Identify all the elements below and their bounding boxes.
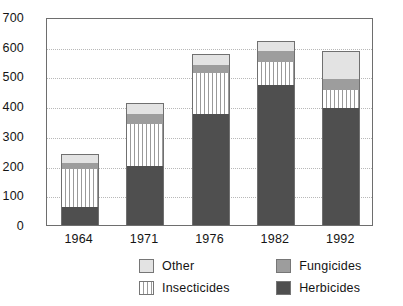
bar-segment-insecticides-1982 <box>257 62 295 86</box>
bar-1964 <box>61 154 99 225</box>
y-tick-label: 400 <box>0 100 24 114</box>
legend-label: Other <box>162 259 194 273</box>
legend-item-other: Other <box>139 259 252 273</box>
bar-segment-insecticides-1992 <box>322 90 360 108</box>
bar-segment-other-1971 <box>126 103 164 113</box>
bar-1992 <box>322 51 360 225</box>
chart-legend: OtherFungicidesInsecticidesHerbicides <box>139 259 384 295</box>
bar-1976 <box>192 54 230 225</box>
bar-segment-fungicides-1992 <box>322 79 360 89</box>
light-gray-swatch <box>139 259 154 273</box>
bar-segment-other-1976 <box>192 54 230 64</box>
bar-segment-herbicides-1992 <box>322 108 360 225</box>
legend-label: Fungicides <box>299 259 361 273</box>
y-tick-label: 100 <box>0 189 24 203</box>
bar-segment-herbicides-1971 <box>126 166 164 225</box>
bar-1982 <box>257 41 295 225</box>
bar-segment-other-1982 <box>257 41 295 51</box>
y-tick-label: 200 <box>0 160 24 174</box>
legend-label: Herbicides <box>299 281 360 295</box>
y-tick-label: 500 <box>0 70 24 84</box>
bar-1971 <box>126 103 164 225</box>
legend-item-insecticides: Insecticides <box>139 281 252 295</box>
x-tick-label-1976: 1976 <box>175 232 245 246</box>
legend-label: Insecticides <box>162 281 230 295</box>
bar-segment-insecticides-1971 <box>126 124 164 166</box>
bar-segment-herbicides-1982 <box>257 85 295 225</box>
bar-segment-fungicides-1982 <box>257 51 295 61</box>
dark-gray-swatch <box>276 281 291 295</box>
y-tick-label: 300 <box>0 130 24 144</box>
bar-segment-other-1964 <box>61 154 99 163</box>
gridline-600 <box>47 49 372 50</box>
striped-swatch <box>139 281 154 295</box>
x-tick-label-1982: 1982 <box>240 232 310 246</box>
stacked-bar-chart: OtherFungicidesInsecticidesHerbicides 01… <box>0 0 403 306</box>
x-tick-label-1971: 1971 <box>109 232 179 246</box>
bar-segment-insecticides-1964 <box>61 169 99 208</box>
y-tick-label: 0 <box>0 219 24 233</box>
medium-gray-swatch <box>276 259 291 273</box>
x-tick-label-1964: 1964 <box>44 232 114 246</box>
x-tick-label-1992: 1992 <box>305 232 375 246</box>
y-tick-label: 700 <box>0 11 24 25</box>
bar-segment-fungicides-1976 <box>192 65 230 74</box>
bar-segment-fungicides-1971 <box>126 114 164 124</box>
legend-item-fungicides: Fungicides <box>276 259 384 273</box>
bar-segment-other-1992 <box>322 51 360 79</box>
y-tick-label: 600 <box>0 41 24 55</box>
legend-item-herbicides: Herbicides <box>276 281 384 295</box>
bar-segment-herbicides-1976 <box>192 114 230 225</box>
plot-area <box>46 18 373 226</box>
bar-segment-insecticides-1976 <box>192 73 230 113</box>
bar-segment-herbicides-1964 <box>61 207 99 225</box>
